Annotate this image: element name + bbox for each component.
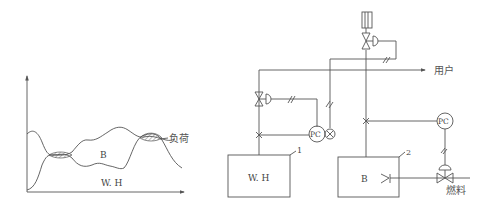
load-label: 负荷 <box>169 132 189 144</box>
box2-leader <box>399 152 405 157</box>
top-valve-actuator-icon <box>373 36 378 46</box>
signal-mark <box>326 101 330 107</box>
wh-box-label: W. H <box>248 173 269 183</box>
load-curve-chart: 负荷 B W. H <box>27 76 189 192</box>
fuel-label: 燃料 <box>446 184 466 196</box>
pc-left-label: PC <box>310 130 321 139</box>
b-box-label: B <box>361 174 368 184</box>
user-label: 用户 <box>434 64 454 76</box>
left-valve-actuator-icon <box>266 94 271 104</box>
box2-number: 2 <box>406 148 411 157</box>
fuel-valve-actuator-icon <box>439 165 451 170</box>
multiplier-cross <box>327 131 333 137</box>
region-label-wh: W. H <box>101 178 122 188</box>
process-diagram: W. H 1 B 2 燃料 PC <box>228 12 470 197</box>
diagram-canvas: 负荷 B W. H W. H 1 B 2 燃料 PC <box>0 0 485 214</box>
header-icon <box>362 12 372 28</box>
pc-right-label: PC <box>438 117 449 126</box>
box1-number: 1 <box>297 146 302 155</box>
region-label-b: B <box>100 150 107 160</box>
box1-leader <box>290 151 296 155</box>
burner-icon <box>381 174 389 183</box>
